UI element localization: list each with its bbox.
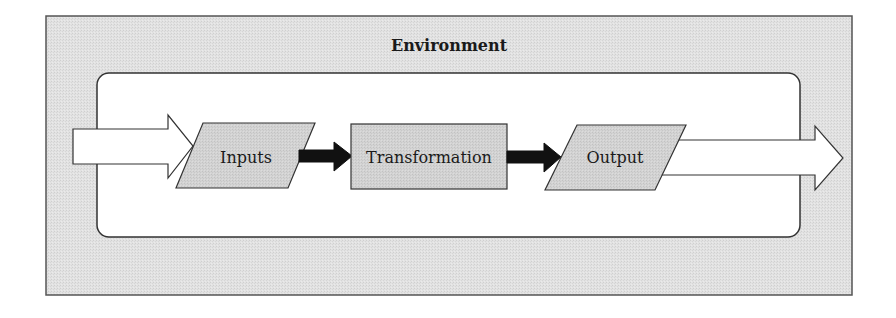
- transformation-label: Transformation: [366, 148, 492, 167]
- output-label: Output: [587, 148, 644, 167]
- transformation-node: Transformation: [351, 124, 507, 189]
- environment-title: Environment: [391, 36, 508, 55]
- inputs-label: Inputs: [220, 148, 272, 167]
- input-process-output-diagram: Environment Inputs Transformation Output: [0, 0, 896, 318]
